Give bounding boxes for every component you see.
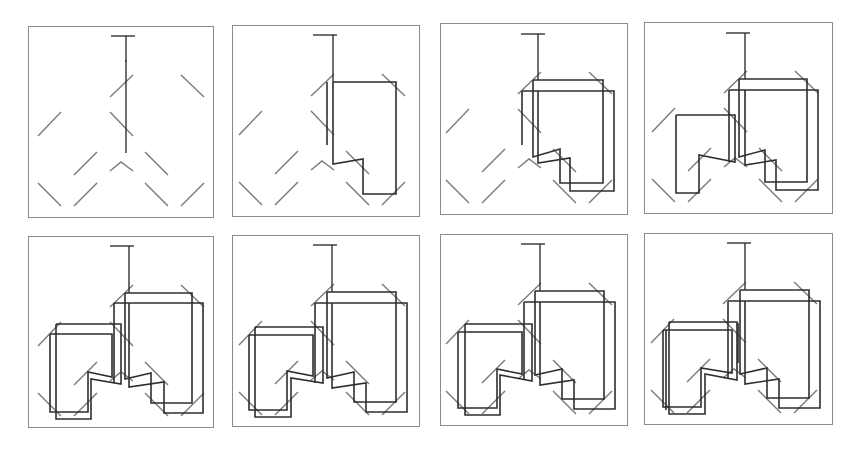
panel-step-6: [232, 235, 420, 427]
tree-diagram-step-3: [440, 23, 628, 215]
panel-step-1: [28, 26, 214, 218]
panel-step-7: [440, 234, 628, 426]
tree-diagram-step-5: [28, 236, 214, 428]
tree-diagram-step-6: [232, 235, 420, 427]
panel-step-2: [232, 25, 420, 217]
panel-step-8: [644, 233, 833, 425]
panel-step-3: [440, 23, 628, 215]
tree-diagram-step-8: [644, 233, 833, 425]
tree-diagram-step-4: [644, 22, 833, 214]
tree-diagram-step-2: [232, 25, 420, 217]
panel-step-4: [644, 22, 833, 214]
tree-diagram-step-1: [28, 26, 214, 218]
tree-diagram-step-7: [440, 234, 628, 426]
panel-step-5: [28, 236, 214, 428]
